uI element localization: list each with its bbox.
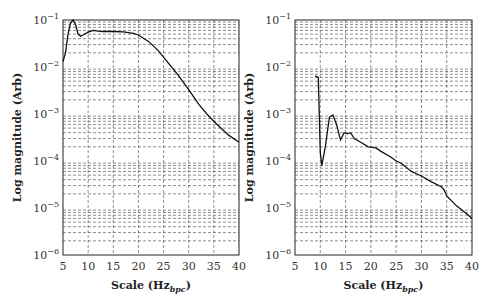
x-tick-label: 30 xyxy=(182,260,196,273)
figure: 51015202530354010−610−510−410−310−210−1S… xyxy=(0,0,501,299)
x-axis-label: Scale (Hzbpc) xyxy=(111,279,191,294)
y-tick-label: 10−1 xyxy=(265,12,291,27)
x-tick-label: 25 xyxy=(157,260,171,273)
plot-frame xyxy=(295,20,472,255)
panel-right: 51015202530354010−610−510−410−310−210−1S… xyxy=(243,12,479,294)
panel-left: 51015202530354010−610−510−410−310−210−1S… xyxy=(11,12,246,294)
y-tick-label: 10−1 xyxy=(33,12,59,27)
y-tick-label: 10−2 xyxy=(265,59,291,74)
series-line-right xyxy=(315,76,472,219)
y-tick-label: 10−3 xyxy=(33,106,59,121)
x-tick-label: 25 xyxy=(389,260,403,273)
x-tick-label: 30 xyxy=(414,260,428,273)
y-tick-label: 10−2 xyxy=(33,59,59,74)
x-tick-label: 15 xyxy=(106,260,120,273)
x-tick-label: 40 xyxy=(232,260,246,273)
x-tick-label: 10 xyxy=(81,260,95,273)
x-tick-label: 5 xyxy=(60,260,67,273)
y-tick-label: 10−6 xyxy=(265,247,291,262)
y-axis-label: Log magnitude (Arb) xyxy=(11,73,24,202)
y-tick-label: 10−5 xyxy=(33,200,59,215)
y-tick-label: 10−3 xyxy=(265,106,291,121)
x-tick-label: 5 xyxy=(292,260,299,273)
x-tick-label: 20 xyxy=(131,260,145,273)
x-tick-label: 35 xyxy=(207,260,221,273)
x-tick-label: 15 xyxy=(339,260,353,273)
y-tick-label: 10−6 xyxy=(33,247,59,262)
y-tick-label: 10−4 xyxy=(265,153,291,168)
x-tick-label: 35 xyxy=(440,260,454,273)
x-tick-label: 10 xyxy=(313,260,327,273)
y-tick-label: 10−5 xyxy=(265,200,291,215)
x-tick-label: 40 xyxy=(465,260,479,273)
plot-frame xyxy=(63,20,239,255)
x-axis-label: Scale (Hzbpc) xyxy=(344,279,424,294)
y-axis-label: Log magnitude (Arb) xyxy=(243,73,256,202)
y-tick-label: 10−4 xyxy=(33,153,59,168)
x-tick-label: 20 xyxy=(364,260,378,273)
